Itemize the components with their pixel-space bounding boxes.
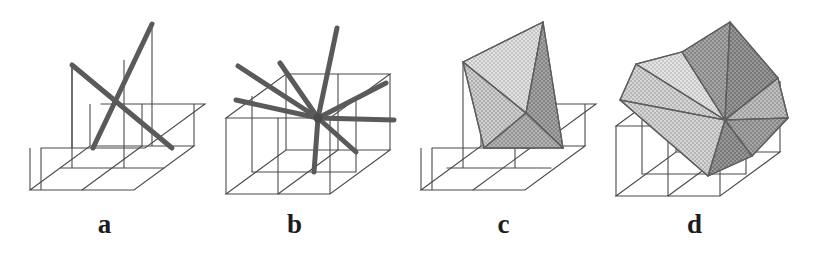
panel-b-label: b [190, 208, 399, 240]
center-vertex-b [314, 114, 323, 123]
panel-a-label: a [0, 208, 209, 240]
spoke-4 [318, 28, 337, 118]
base-grid-b [226, 150, 390, 194]
ridge-sw-ne [93, 24, 152, 148]
spoke-6 [318, 118, 394, 120]
panel-c-label: c [399, 208, 608, 240]
ridge-lines-a [72, 24, 172, 148]
panel-c: c [399, 0, 608, 256]
spoke-5 [318, 83, 386, 118]
base-grid-a [30, 104, 205, 190]
ridge-nw-se [72, 65, 172, 148]
spoke-8 [314, 118, 318, 172]
panel-d: d [590, 0, 799, 256]
facets-d [620, 22, 788, 176]
facets-c [463, 22, 563, 148]
panel-b-drawing [190, 0, 399, 210]
spoke-7 [318, 118, 356, 152]
panel-a: a [0, 0, 209, 256]
panel-d-drawing [590, 0, 799, 210]
panel-b: b [190, 0, 399, 256]
figure-container: a [0, 0, 836, 256]
panel-d-label: d [590, 208, 799, 240]
panel-a-drawing [0, 0, 209, 210]
panel-c-drawing [399, 0, 608, 210]
vertical-frame-a [41, 65, 72, 190]
